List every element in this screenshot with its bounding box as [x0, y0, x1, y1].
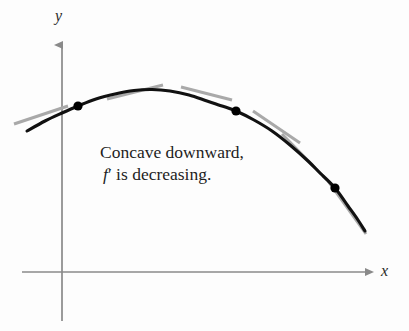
- annotation-text-block: Concave downward, f′ is decreasing.: [100, 141, 310, 186]
- marked-point-2: [231, 106, 240, 115]
- annotation-line-two-rest: is decreasing.: [112, 164, 212, 184]
- annotation-line-one: Concave downward,: [100, 141, 310, 163]
- tangent-2: [107, 85, 163, 99]
- marked-point-1: [73, 101, 82, 110]
- concavity-figure: y x Concave downward, f′ is decreasing.: [0, 0, 409, 331]
- y-axis-label: y: [55, 8, 62, 24]
- marked-point-3: [330, 183, 339, 192]
- annotation-line-two: f′ is decreasing.: [100, 163, 310, 185]
- x-axis-label: x: [381, 263, 388, 279]
- tangent-4: [253, 111, 300, 143]
